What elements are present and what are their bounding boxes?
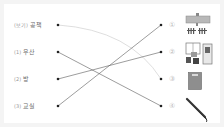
room-icon — [185, 42, 213, 66]
right-marker-2: ② — [169, 48, 175, 56]
right-dot[interactable] — [160, 51, 163, 54]
notebook-icon — [188, 72, 202, 90]
left-dot[interactable] — [57, 78, 60, 81]
umbrella-icon — [185, 97, 211, 125]
right-marker-3: ③ — [169, 75, 175, 83]
right-marker-1: ① — [169, 21, 175, 29]
classroom-icon — [185, 13, 211, 37]
right-dot[interactable] — [160, 105, 163, 108]
right-dot[interactable] — [160, 78, 163, 81]
left-dot[interactable] — [57, 105, 60, 108]
right-dot[interactable] — [160, 24, 163, 27]
example-connection-line — [58, 25, 161, 79]
left-dot[interactable] — [57, 24, 60, 27]
left-dot[interactable] — [57, 51, 60, 54]
connection-line — [58, 25, 161, 106]
right-marker-4: ④ — [169, 102, 175, 110]
